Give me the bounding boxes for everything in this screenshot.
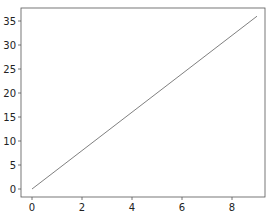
x-tick-label: 8 bbox=[229, 202, 235, 213]
y-tick-label: 30 bbox=[3, 40, 16, 51]
y-tick-label: 15 bbox=[3, 112, 16, 123]
y-tick-label: 10 bbox=[3, 136, 16, 147]
y-tick-label: 5 bbox=[10, 160, 16, 171]
y-tick-label: 35 bbox=[3, 16, 16, 27]
x-tick-label: 0 bbox=[29, 202, 35, 213]
y-tick-label: 0 bbox=[10, 184, 16, 195]
x-tick-label: 6 bbox=[179, 202, 185, 213]
line-chart: 05101520253035 02468 bbox=[0, 0, 269, 213]
y-tick-label: 20 bbox=[3, 88, 16, 99]
y-tick-label: 25 bbox=[3, 64, 16, 75]
x-axis: 02468 bbox=[29, 197, 235, 213]
plot-area bbox=[21, 8, 265, 197]
x-tick-label: 4 bbox=[129, 202, 135, 213]
y-axis: 05101520253035 bbox=[3, 16, 21, 195]
x-tick-label: 2 bbox=[79, 202, 85, 213]
